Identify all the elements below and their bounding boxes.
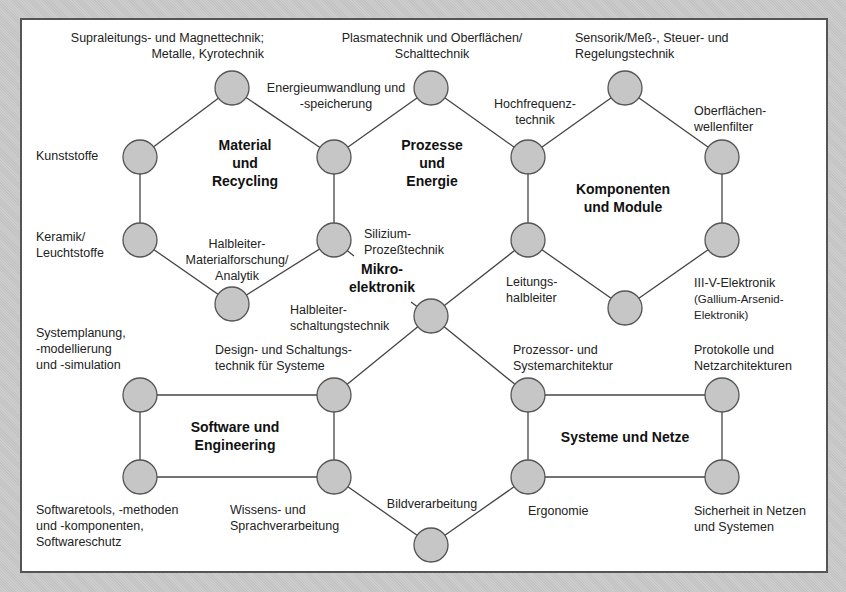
label-line: Supraleitungs- und Magnettechnik; [40,30,264,46]
label-line: Design- und Schaltungs- [215,342,352,358]
node-silizium [317,223,351,257]
node-hochfrequenz [511,140,545,174]
group-line: und Module [568,198,678,216]
label-line: Softwareschutz [36,534,178,550]
label-line: Silizium- [364,226,444,242]
label-line: -speicherung [258,96,414,112]
label-softwaretools: Softwaretools, -methoden und -komponente… [36,502,178,550]
node-wissens [317,460,351,494]
label-sensorik: Sensorik/Meß-, Steuer- und Regelungstech… [575,30,729,62]
label-line: Systemplanung, [36,325,126,341]
label-bildverarbeitung: Bildverarbeitung [372,496,492,512]
group-line: Software und [180,418,290,436]
label-line: wellenfilter [694,119,766,135]
label-line: und -komponenten, [36,518,178,534]
label-line: Protokolle und [694,342,792,358]
label-line: Sicherheit in Netzen [694,503,806,519]
label-oberflaechenwellenfilter: Oberflächen- wellenfilter [694,103,766,135]
label-line: Prozessor- und [513,342,613,358]
label-protokolle: Protokolle und Netzarchitekturen [694,342,792,374]
label-line: Oberflächen- [694,103,766,119]
node-sicherheit [705,460,739,494]
group-prozesse-energie: Prozesse und Energie [392,136,472,190]
label-kunststoffe: Kunststoffe [36,148,98,164]
node-halbleiter-schaltung [414,299,448,333]
group-line: elektronik [342,278,422,296]
group-line: Material [205,136,285,154]
node-plasmatechnik [414,71,448,105]
group-line: Komponenten [568,180,678,198]
label-line: Sprachverarbeitung [230,518,339,534]
label-line: Schalttechnik [322,46,542,62]
label-line: Regelungstechnik [575,46,729,62]
label-line: halbleiter [506,290,557,306]
label-line: Kunststoffe [36,148,98,164]
label-halbleiter-material: Halbleiter- Materialforschung/ Analytik [182,236,292,284]
label-line: Ergonomie [528,503,588,519]
label-line: Sensorik/Meß-, Steuer- und [575,30,729,46]
node-kunststoffe [123,140,157,174]
group-line: Energie [392,172,472,190]
node-halbleiter-material [215,287,249,321]
label-design: Design- und Schaltungs- technik für Syst… [215,342,352,374]
label-line: Leuchtstoffe [36,245,104,261]
label-iii-v-elektronik: III-V-Elektronik (Gallium-Arsenid- Elekt… [694,275,783,323]
node-leitungshalbleiter [511,223,545,257]
group-mikroelektronik: Mikro- elektronik [342,260,422,296]
node-keramik [123,223,157,257]
label-keramik: Keramik/ Leuchtstoffe [36,229,104,261]
label-line: -modellierung [36,341,126,357]
label-line: technik für Systeme [215,358,352,374]
node-komponenten-bottom [608,291,642,325]
group-material-recycling: Material und Recycling [205,136,285,190]
node-design [317,378,351,412]
node-ergonomie [511,460,545,494]
label-line: schaltungstechnik [290,318,389,334]
node-iii-v-elektronik [705,223,739,257]
group-systeme-netze: Systeme und Netze [550,428,700,446]
group-line: Systeme und Netze [550,428,700,446]
label-wissens: Wissens- und Sprachverarbeitung [230,502,339,534]
label-line: Hochfrequenz- [480,96,590,112]
label-line: Systemarchitektur [513,358,613,374]
group-line: Recycling [205,172,285,190]
label-line: Plasmatechnik und Oberflächen/ [322,30,542,46]
label-systemplanung: Systemplanung, -modellierung und -simula… [36,325,126,373]
label-line: Bildverarbeitung [372,496,492,512]
node-sensorik [608,71,642,105]
label-line: und Systemen [694,519,806,535]
label-line: Energieumwandlung und [258,80,414,96]
label-prozessor: Prozessor- und Systemarchitektur [513,342,613,374]
label-line: Metalle, Kyrotechnik [40,46,264,62]
group-komponenten-module: Komponenten und Module [568,180,678,216]
node-softwaretools [123,460,157,494]
label-silizium: Silizium- Prozeßtechnik [364,226,444,258]
label-hochfrequenz: Hochfrequenz- technik [480,96,590,128]
label-line: Keramik/ [36,229,104,245]
label-line: Halbleiter- [290,302,389,318]
label-supraleitung: Supraleitungs- und Magnettechnik; Metall… [40,30,264,62]
label-line: (Gallium-Arsenid- [694,291,783,307]
node-oberflaechenwellenfilter [705,140,739,174]
label-plasmatechnik: Plasmatechnik und Oberflächen/ Schalttec… [322,30,542,62]
group-line: Prozesse [392,136,472,154]
label-line: und -simulation [36,357,126,373]
label-line: Softwaretools, -methoden [36,502,178,518]
label-halbleiter-schaltung: Halbleiter- schaltungstechnik [290,302,389,334]
node-protokolle [705,378,739,412]
label-line: Materialforschung/ [182,252,292,268]
node-energieumwandlung [317,140,351,174]
group-software-engineering: Software und Engineering [180,418,290,454]
label-line: technik [480,112,590,128]
label-line: Leitungs- [506,274,557,290]
node-prozessor [511,378,545,412]
label-line: Prozeßtechnik [364,242,444,258]
label-line: Wissens- und [230,502,339,518]
label-leitungshalbleiter: Leitungs- halbleiter [506,274,557,306]
node-systemplanung [123,378,157,412]
label-energieumwandlung: Energieumwandlung und -speicherung [258,80,414,112]
group-line: Mikro- [342,260,422,278]
group-line: und [205,154,285,172]
label-line: Elektronik) [694,307,783,323]
label-line: Netzarchitekturen [694,358,792,374]
